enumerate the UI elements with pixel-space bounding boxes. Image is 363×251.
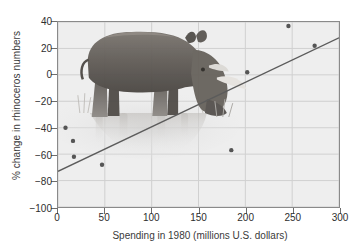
x-axis-tick-label: 250 (284, 212, 301, 223)
data-point (245, 70, 249, 74)
data-point (72, 155, 76, 159)
x-axis-tick-label: 0 (54, 212, 60, 223)
y-axis-title: % change in rhinoceros numbers (11, 6, 22, 206)
y-axis-tick-label: 40 (41, 16, 52, 27)
x-axis-tick-label: 300 (332, 212, 349, 223)
x-axis-tick-label: 50 (99, 212, 110, 223)
y-axis-tick-label: 20 (41, 42, 52, 53)
data-point (312, 44, 316, 48)
data-point (100, 163, 104, 167)
data-point (63, 126, 67, 130)
data-point (229, 148, 233, 152)
x-axis-tick-label: 200 (237, 212, 254, 223)
y-axis-tick-label: −80 (35, 176, 52, 187)
data-point (71, 139, 75, 143)
y-axis-tick-label: −60 (35, 149, 52, 160)
y-axis-tick-label: −20 (35, 96, 52, 107)
x-axis-tick-label: 150 (190, 212, 207, 223)
x-axis-tick-label: 100 (143, 212, 160, 223)
gridlines-and-trendline (58, 22, 339, 207)
data-points (63, 24, 317, 167)
y-axis-tick-label: 0 (46, 69, 52, 80)
scatter-chart-figure: % change in rhinoceros numbers Spending … (0, 0, 363, 251)
data-point (286, 24, 290, 28)
gridlines (58, 22, 339, 207)
y-axis-tick-label: −100 (29, 203, 52, 214)
x-axis-title: Spending in 1980 (millions U.S. dollars) (55, 230, 345, 241)
y-axis-tick-label: −40 (35, 122, 52, 133)
plot-area (57, 21, 340, 208)
